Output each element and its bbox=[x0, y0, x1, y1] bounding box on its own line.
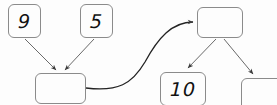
node-ten[interactable]: 10 bbox=[160, 72, 206, 105]
node-root-empty[interactable] bbox=[197, 7, 243, 38]
edge-root-to-right bbox=[224, 39, 253, 74]
edge-five-to-sum bbox=[65, 39, 94, 70]
node-nine-label: 9 bbox=[18, 12, 32, 31]
node-five[interactable]: 5 bbox=[80, 4, 113, 38]
node-sum-empty[interactable] bbox=[35, 73, 86, 104]
edge-nine-to-sum bbox=[25, 39, 56, 70]
node-right-empty[interactable] bbox=[241, 78, 277, 105]
diagram-canvas: 9 5 10 bbox=[0, 0, 277, 105]
edge-root-to-ten bbox=[188, 39, 216, 68]
node-ten-label: 10 bbox=[170, 80, 197, 99]
node-nine[interactable]: 9 bbox=[8, 4, 41, 38]
node-five-label: 5 bbox=[90, 12, 104, 31]
